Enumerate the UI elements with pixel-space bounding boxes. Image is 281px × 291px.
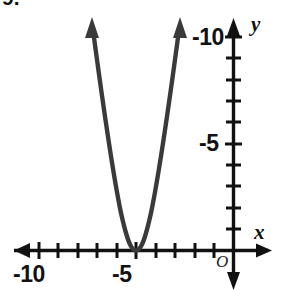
parabola-curve [85, 17, 187, 251]
parabola-path [93, 30, 179, 251]
y-axis-label: y [251, 14, 260, 35]
x-axis-right-arrowhead [256, 244, 272, 258]
y-axis-tick-label-5: -5 [199, 132, 218, 155]
origin-label: O [216, 253, 228, 270]
x-axis-label: x [254, 222, 265, 243]
x-axis-tick-label-neg5: -5 [112, 263, 131, 286]
y-axis-up-arrowhead [227, 18, 240, 36]
x-axis-tick-label-neg10: -10 [13, 263, 45, 286]
parabola-left-arrowhead [85, 17, 99, 38]
x-axis-left-arrowhead [14, 243, 30, 258]
y-axis-down-arrowhead [227, 272, 240, 290]
parabola-right-arrowhead [173, 17, 187, 38]
graph-figure: 9. [0, 0, 281, 291]
y-axis-tick-label-10: -10 [192, 26, 224, 49]
coordinate-plane-svg [0, 0, 281, 291]
